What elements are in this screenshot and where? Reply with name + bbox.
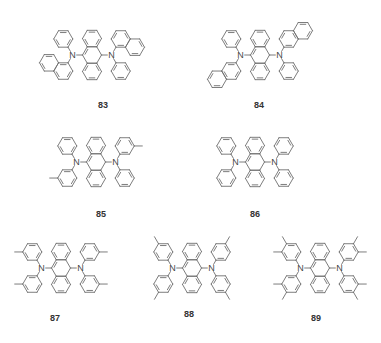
nitrogen-atom-85-right: N <box>112 157 119 167</box>
nitrogen-atom-84-right: N <box>276 50 283 60</box>
nitrogen-atom-83-left: N <box>69 50 76 60</box>
compound-label-89: 89 <box>311 313 321 323</box>
molecule-84: NN <box>208 23 313 88</box>
compound-label-83: 83 <box>98 100 108 110</box>
molecule-85: NN <box>50 137 143 186</box>
nitrogen-atom-87-right: N <box>77 263 84 273</box>
nitrogen-atom-86-left: N <box>232 157 239 167</box>
compound-label-88: 88 <box>184 309 194 319</box>
molecule-86: NN <box>217 137 293 186</box>
molecule-83: NN <box>40 30 145 79</box>
compound-label-85: 85 <box>96 209 106 219</box>
nitrogen-atom-88-right: N <box>208 263 215 273</box>
nitrogen-atom-83-right: N <box>108 50 115 60</box>
compound-label-87: 87 <box>50 313 60 323</box>
compound-label-86: 86 <box>250 209 260 219</box>
nitrogen-atom-85-left: N <box>73 157 80 167</box>
molecule-88: NN <box>154 237 230 300</box>
nitrogen-atom-88-left: N <box>169 263 176 273</box>
nitrogen-atom-86-right: N <box>271 157 278 167</box>
nitrogen-atom-89-right: N <box>336 263 343 273</box>
molecule-87: NN <box>15 243 108 292</box>
nitrogen-atom-87-left: N <box>38 263 45 273</box>
chemical-structures-canvas: NNNNNNNNNNNNNN <box>0 0 381 343</box>
nitrogen-atom-84-left: N <box>237 50 244 60</box>
nitrogen-atom-89-left: N <box>297 263 304 273</box>
molecule-89: NN <box>274 237 367 300</box>
compound-label-84: 84 <box>254 100 264 110</box>
